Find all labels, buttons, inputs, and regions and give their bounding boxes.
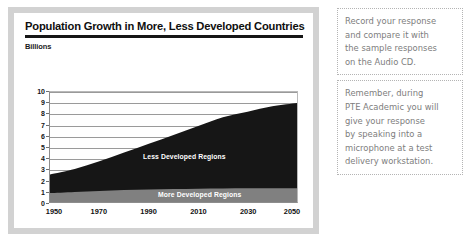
y-axis-tick-label: 2 — [41, 177, 45, 184]
note-box-pte-microphone: Remember, duringPTE Academic you willgiv… — [337, 80, 463, 175]
y-axis-tick-label: 5 — [41, 144, 45, 151]
y-axis-tick-label: 7 — [41, 121, 45, 128]
plot-area: Less Developed Regions More Developed Re… — [49, 91, 298, 203]
note-line: give your response — [345, 115, 455, 129]
x-axis-tick-label: 1950 — [46, 207, 62, 216]
note-line: on the Audio CD. — [345, 56, 455, 70]
note-line: Remember, during — [345, 87, 455, 101]
y-axis-tick-label: 8 — [41, 110, 45, 117]
y-axis-tick-label: 3 — [41, 166, 45, 173]
chart-plot-wrapper: 012345678910 Less Developed Regions More… — [23, 87, 315, 227]
y-axis-tick-label: 0 — [41, 200, 45, 207]
note-line: PTE Academic you will — [345, 101, 455, 115]
x-axis-tick-label: 2050 — [284, 207, 300, 216]
title-rule — [25, 35, 303, 38]
x-axis-tick-label: 2010 — [190, 207, 206, 216]
note-line: by speaking into a — [345, 128, 455, 142]
notes-panel: Record your responseand compare it witht… — [337, 8, 463, 175]
note-line: delivery workstation. — [345, 155, 455, 169]
chart-card-inner: Population Growth in More, Less Develope… — [14, 13, 313, 228]
y-axis-tick-label: 4 — [41, 155, 45, 162]
stacked-area-series — [50, 92, 297, 202]
x-axis-tick-label: 2030 — [240, 207, 256, 216]
chart-title: Population Growth in More, Less Develope… — [25, 20, 304, 33]
series-label-more-developed: More Developed Regions — [158, 191, 241, 198]
note-box-audio-cd: Record your responseand compare it witht… — [337, 8, 463, 75]
x-axis-tick-label: 1990 — [140, 207, 156, 216]
chart-axis-unit-label: Billions — [25, 42, 304, 51]
y-axis-tick-label: 10 — [37, 88, 45, 95]
note-line: and compare it with — [345, 29, 455, 43]
x-axis-tick-label: 1970 — [91, 207, 107, 216]
y-axis-tick-label: 1 — [41, 188, 45, 195]
y-axis-tick-label: 6 — [41, 132, 45, 139]
y-axis-tick-mark — [46, 203, 49, 204]
page-root: Population Growth in More, Less Develope… — [0, 0, 473, 248]
x-axis-tick-labels: 195019701990201020302050 — [49, 207, 298, 221]
note-line: Record your response — [345, 15, 455, 29]
series-label-less-developed: Less Developed Regions — [143, 153, 226, 160]
note-line: microphone at a test — [345, 142, 455, 156]
y-axis-tick-label: 9 — [41, 99, 45, 106]
note-line: the sample responses — [345, 42, 455, 56]
chart-card: Population Growth in More, Less Develope… — [8, 7, 319, 234]
